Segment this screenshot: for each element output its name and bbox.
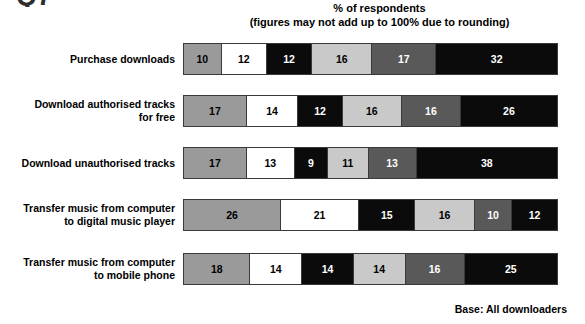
bar-segment: 18 (184, 254, 250, 284)
bar-segment: 16 (312, 44, 372, 74)
clipped-question-number: Q7 (16, 0, 78, 7)
chart-header: % of respondents (figures may not add up… (192, 1, 567, 29)
stacked-bar-chart: Purchase downloads101212161732Download a… (0, 33, 585, 297)
bar-segment: 14 (250, 254, 302, 284)
bar-segment: 16 (415, 200, 475, 230)
chart-row: Download authorised tracks for free17141… (0, 85, 585, 137)
bar-track: 262115161012 (183, 199, 558, 231)
row-label: Transfer music from computer to digital … (0, 202, 183, 228)
bar-segment: 14 (302, 254, 354, 284)
chart-row: Download unauthorised tracks17139111338 (0, 137, 585, 189)
row-label: Download authorised tracks for free (0, 98, 183, 124)
base-note: Base: All downloaders (192, 303, 567, 315)
bar-segment: 12 (298, 96, 342, 126)
bar-segment: 10 (475, 200, 512, 230)
bar-segment: 14 (354, 254, 406, 284)
row-label: Download unauthorised tracks (0, 157, 183, 170)
bar-track: 101212161732 (183, 43, 558, 75)
bar-segment: 10 (184, 44, 222, 74)
bar-segment: 14 (247, 96, 299, 126)
question-number-text: Q7 (16, 0, 78, 7)
bar-segment: 12 (222, 44, 267, 74)
row-label: Purchase downloads (0, 53, 183, 66)
bar-segment: 16 (406, 254, 465, 284)
bar-segment: 16 (343, 96, 402, 126)
chart-row: Purchase downloads101212161732 (0, 33, 585, 85)
chart-row: Transfer music from computer to mobile p… (0, 241, 585, 297)
bar-track: 17139111338 (183, 147, 558, 179)
bar-segment: 12 (267, 44, 312, 74)
bar-segment: 25 (465, 254, 557, 284)
chart-row: Transfer music from computer to digital … (0, 189, 585, 241)
bar-segment: 12 (512, 200, 557, 230)
bar-segment: 11 (328, 148, 369, 178)
bar-segment: 21 (281, 200, 359, 230)
bar-segment: 17 (372, 44, 436, 74)
bar-segment: 9 (295, 148, 328, 178)
bar-segment: 16 (402, 96, 461, 126)
bar-segment: 17 (184, 96, 247, 126)
bar-track: 171412161626 (183, 95, 558, 127)
bar-segment: 38 (417, 148, 557, 178)
bar-track: 181414141625 (183, 253, 558, 285)
bar-segment: 13 (369, 148, 417, 178)
chart-subtitle: (figures may not add up to 100% due to r… (192, 15, 567, 29)
chart-title: % of respondents (192, 1, 567, 15)
bar-segment: 15 (359, 200, 415, 230)
bar-segment: 26 (461, 96, 557, 126)
bar-segment: 32 (436, 44, 557, 74)
bar-segment: 26 (184, 200, 281, 230)
bar-segment: 17 (184, 148, 247, 178)
row-label: Transfer music from computer to mobile p… (0, 256, 183, 282)
bar-segment: 13 (247, 148, 295, 178)
